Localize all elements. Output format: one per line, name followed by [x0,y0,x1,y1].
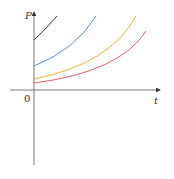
x-axis-label: t [154,95,159,106]
curve-black [34,16,57,40]
chart: P t 0 [0,0,174,179]
curve-blue [34,16,96,66]
origin-label: 0 [24,93,30,104]
y-axis-label: P [24,10,32,21]
curve-yellow [34,16,136,79]
